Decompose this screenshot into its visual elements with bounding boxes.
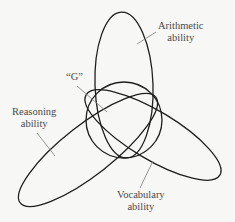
vocabulary-label-line2: ability — [117, 201, 165, 213]
vocabulary-label-line1: Vocabulary — [117, 189, 165, 201]
vocabulary-label: Vocabulary ability — [117, 189, 165, 212]
g-label: “G” — [66, 71, 83, 83]
reasoning-leader-line — [37, 133, 55, 156]
vocabulary-leader-line — [140, 161, 153, 188]
arithmetic-label-line1: Arithmetic — [158, 20, 204, 32]
arithmetic-label: Arithmetic ability — [158, 20, 204, 43]
reasoning-label-line2: ability — [12, 118, 56, 130]
reasoning-label-line1: Reasoning — [12, 106, 56, 118]
diagram-canvas: Arithmetic ability “G” Reasoning ability… — [0, 0, 235, 222]
g-label-text: “G” — [66, 71, 83, 83]
arithmetic-ellipse — [92, 11, 155, 159]
reasoning-label: Reasoning ability — [12, 106, 56, 129]
arithmetic-label-line2: ability — [158, 32, 204, 44]
